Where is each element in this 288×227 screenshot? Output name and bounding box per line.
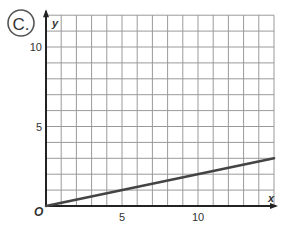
coordinate-graph: C. 510510yxO (0, 0, 288, 227)
axes (43, 9, 278, 209)
y-axis-label: y (51, 17, 59, 29)
y-tick-label: 10 (30, 41, 42, 53)
badge-label: C. (13, 15, 30, 34)
question-badge: C. (8, 10, 34, 36)
grid-lines (46, 15, 274, 206)
x-tick-label: 10 (192, 211, 204, 223)
data-line (46, 158, 274, 206)
x-tick-label: 5 (119, 211, 125, 223)
data-series (46, 158, 274, 206)
y-axis-arrow-icon (43, 9, 49, 17)
origin-label: O (34, 205, 44, 219)
y-tick-label: 5 (36, 121, 42, 133)
x-axis-label: x (267, 192, 275, 204)
